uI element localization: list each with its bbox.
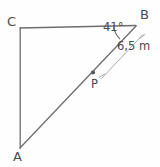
geometry-figure: C B A P 41° 6,5 m — [0, 0, 160, 167]
vertex-label-a: A — [13, 150, 22, 163]
figure-canvas — [0, 0, 160, 167]
point-label-p: P — [91, 79, 98, 91]
length-label-pb: 6,5 m — [117, 41, 150, 53]
vertex-label-c: C — [7, 15, 16, 28]
angle-label-b: 41° — [103, 22, 123, 34]
point-marker-p — [91, 70, 95, 74]
vertex-label-b: B — [140, 8, 149, 21]
